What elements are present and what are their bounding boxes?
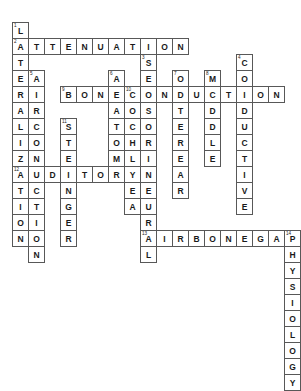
- crossword-cell[interactable]: A: [108, 102, 125, 119]
- crossword-cell[interactable]: I: [156, 230, 173, 247]
- crossword-cell[interactable]: 9B: [60, 86, 77, 103]
- crossword-cell[interactable]: O: [252, 86, 269, 103]
- crossword-cell[interactable]: R: [140, 134, 157, 151]
- crossword-cell[interactable]: 4C: [236, 54, 253, 71]
- crossword-cell[interactable]: V: [236, 182, 253, 199]
- crossword-cell[interactable]: A: [172, 166, 189, 183]
- crossword-cell[interactable]: E: [172, 150, 189, 167]
- crossword-cell[interactable]: L: [140, 246, 157, 263]
- crossword-cell[interactable]: E: [60, 150, 77, 167]
- crossword-cell[interactable]: S: [140, 102, 157, 119]
- crossword-cell[interactable]: L: [124, 150, 141, 167]
- crossword-cell[interactable]: N: [28, 246, 45, 263]
- crossword-cell[interactable]: O: [156, 38, 173, 55]
- crossword-cell[interactable]: R: [172, 182, 189, 199]
- crossword-cell[interactable]: O: [28, 134, 45, 151]
- crossword-cell[interactable]: Z: [12, 150, 29, 167]
- crossword-cell[interactable]: N: [28, 150, 45, 167]
- crossword-cell[interactable]: 12A: [12, 166, 29, 183]
- crossword-cell[interactable]: C: [204, 86, 221, 103]
- crossword-cell[interactable]: T: [44, 38, 61, 55]
- crossword-cell[interactable]: G: [284, 358, 301, 375]
- crossword-cell[interactable]: A: [108, 38, 125, 55]
- crossword-cell[interactable]: D: [204, 102, 221, 119]
- crossword-cell[interactable]: T: [108, 118, 125, 135]
- crossword-cell[interactable]: U: [28, 166, 45, 183]
- crossword-cell[interactable]: 13A: [140, 230, 157, 247]
- crossword-cell[interactable]: T: [12, 182, 29, 199]
- crossword-cell[interactable]: I: [236, 166, 253, 183]
- crossword-cell[interactable]: I: [140, 38, 157, 55]
- crossword-cell[interactable]: O: [284, 342, 301, 359]
- crossword-cell[interactable]: E: [140, 182, 157, 199]
- crossword-cell[interactable]: R: [60, 230, 77, 247]
- crossword-cell[interactable]: 1L: [12, 22, 29, 39]
- crossword-cell[interactable]: R: [172, 230, 189, 247]
- crossword-cell[interactable]: R: [172, 134, 189, 151]
- crossword-cell[interactable]: O: [140, 118, 157, 135]
- crossword-cell[interactable]: 2A: [12, 38, 29, 55]
- crossword-cell[interactable]: N: [60, 182, 77, 199]
- crossword-cell[interactable]: O: [12, 214, 29, 231]
- crossword-cell[interactable]: A: [124, 198, 141, 215]
- crossword-cell[interactable]: Y: [284, 374, 301, 391]
- crossword-cell[interactable]: E: [12, 70, 29, 87]
- crossword-cell[interactable]: O: [28, 230, 45, 247]
- crossword-cell[interactable]: C: [28, 182, 45, 199]
- crossword-cell[interactable]: C: [124, 118, 141, 135]
- crossword-cell[interactable]: N: [92, 86, 109, 103]
- crossword-cell[interactable]: E: [236, 230, 253, 247]
- crossword-cell[interactable]: R: [108, 166, 125, 183]
- crossword-cell[interactable]: O: [76, 86, 93, 103]
- crossword-cell[interactable]: E: [60, 38, 77, 55]
- crossword-cell[interactable]: I: [28, 86, 45, 103]
- crossword-cell[interactable]: M: [108, 150, 125, 167]
- crossword-cell[interactable]: B: [188, 230, 205, 247]
- crossword-cell[interactable]: 10C: [124, 86, 141, 103]
- crossword-cell[interactable]: O: [284, 310, 301, 327]
- crossword-cell[interactable]: O: [236, 70, 253, 87]
- crossword-cell[interactable]: L: [204, 134, 221, 151]
- crossword-cell[interactable]: I: [60, 166, 77, 183]
- crossword-cell[interactable]: S: [284, 278, 301, 295]
- crossword-cell[interactable]: T: [76, 166, 93, 183]
- crossword-cell[interactable]: 14P: [284, 230, 301, 247]
- crossword-cell[interactable]: 6A: [108, 70, 125, 87]
- crossword-cell[interactable]: D: [44, 166, 61, 183]
- crossword-cell[interactable]: E: [124, 182, 141, 199]
- crossword-cell[interactable]: L: [12, 118, 29, 135]
- crossword-cell[interactable]: N: [172, 38, 189, 55]
- crossword-cell[interactable]: T: [60, 134, 77, 151]
- crossword-cell[interactable]: N: [140, 166, 157, 183]
- crossword-cell[interactable]: C: [236, 134, 253, 151]
- crossword-cell[interactable]: D: [204, 118, 221, 135]
- crossword-cell[interactable]: I: [12, 134, 29, 151]
- crossword-cell[interactable]: N: [76, 38, 93, 55]
- crossword-cell[interactable]: U: [92, 38, 109, 55]
- crossword-cell[interactable]: T: [236, 150, 253, 167]
- crossword-cell[interactable]: O: [92, 166, 109, 183]
- crossword-cell[interactable]: N: [268, 86, 285, 103]
- crossword-cell[interactable]: C: [28, 118, 45, 135]
- crossword-cell[interactable]: O: [124, 102, 141, 119]
- crossword-cell[interactable]: T: [220, 86, 237, 103]
- crossword-cell[interactable]: U: [188, 86, 205, 103]
- crossword-cell[interactable]: U: [236, 118, 253, 135]
- crossword-cell[interactable]: R: [140, 214, 157, 231]
- crossword-cell[interactable]: H: [124, 134, 141, 151]
- crossword-cell[interactable]: G: [60, 198, 77, 215]
- crossword-cell[interactable]: E: [108, 86, 125, 103]
- crossword-cell[interactable]: Y: [284, 262, 301, 279]
- crossword-cell[interactable]: O: [140, 86, 157, 103]
- crossword-cell[interactable]: D: [172, 86, 189, 103]
- crossword-cell[interactable]: 3S: [140, 54, 157, 71]
- crossword-cell[interactable]: U: [140, 198, 157, 215]
- crossword-cell[interactable]: 11S: [60, 118, 77, 135]
- crossword-cell[interactable]: I: [28, 214, 45, 231]
- crossword-cell[interactable]: 8M: [204, 70, 221, 87]
- crossword-cell[interactable]: E: [140, 70, 157, 87]
- crossword-cell[interactable]: N: [12, 230, 29, 247]
- crossword-cell[interactable]: A: [268, 230, 285, 247]
- crossword-cell[interactable]: Y: [124, 166, 141, 183]
- crossword-cell[interactable]: I: [12, 198, 29, 215]
